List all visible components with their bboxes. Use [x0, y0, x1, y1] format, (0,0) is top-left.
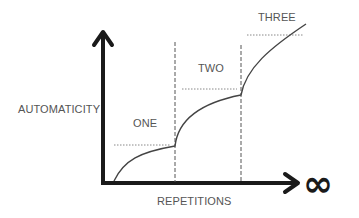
habit-automaticity-diagram: AUTOMATICITY REPETITIONS ONE TWO THREE ∞: [0, 0, 359, 218]
y-axis-label: AUTOMATICITY: [18, 103, 100, 115]
stage-label-three: THREE: [258, 11, 296, 23]
x-axis-label: REPETITIONS: [157, 195, 231, 207]
stage-label-one: ONE: [133, 117, 157, 129]
automaticity-curve: [114, 24, 306, 181]
infinity-icon: ∞: [303, 166, 333, 202]
x-axis: [101, 174, 298, 192]
stage-label-two: TWO: [198, 62, 224, 74]
